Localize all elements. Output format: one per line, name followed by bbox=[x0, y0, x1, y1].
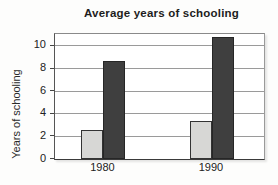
bar-1980-dark-gray-bars bbox=[103, 61, 125, 159]
y-tick-label-10: 10 bbox=[28, 39, 46, 50]
y-tick-mark-6 bbox=[50, 90, 54, 91]
y-tick-mark-2 bbox=[50, 135, 54, 136]
plot-area bbox=[54, 33, 265, 160]
bar-chart-figure: Average years of schooling Years of scho… bbox=[0, 0, 278, 185]
y-tick-mark-8 bbox=[50, 68, 54, 69]
y-tick-mark-10 bbox=[50, 45, 54, 46]
y-tick-mark-0 bbox=[50, 158, 54, 159]
y-tick-label-4: 4 bbox=[28, 107, 46, 118]
x-tick-label-1980: 1980 bbox=[80, 161, 124, 173]
chart-title: Average years of schooling bbox=[54, 7, 269, 19]
y-tick-label-0: 0 bbox=[28, 153, 46, 164]
bar-1990-light-gray-bars bbox=[190, 121, 212, 159]
bar-1980-light-gray-bars bbox=[81, 130, 103, 159]
y-tick-label-8: 8 bbox=[28, 62, 46, 73]
bar-1990-dark-gray-bars bbox=[212, 37, 234, 159]
y-tick-label-2: 2 bbox=[28, 130, 46, 141]
y-tick-mark-4 bbox=[50, 113, 54, 114]
x-tick-label-1990: 1990 bbox=[189, 161, 233, 173]
y-axis-label: Years of schooling bbox=[10, 59, 22, 169]
y-tick-label-6: 6 bbox=[28, 85, 46, 96]
